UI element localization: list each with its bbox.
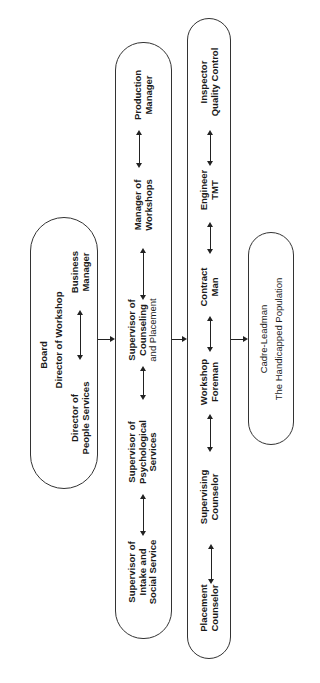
contract-man-label: Contract Man xyxy=(199,267,220,306)
supervising-counselor-label: Supervising Counselor xyxy=(199,470,220,524)
dps-line2: People Services xyxy=(80,382,91,455)
cm-line1: Contract xyxy=(199,267,210,306)
business-line2: Manager xyxy=(80,251,91,293)
inspector-qc-label: Inspector Quality Control xyxy=(199,48,220,117)
pm-line1: Production xyxy=(133,70,144,120)
business-line1: Business xyxy=(70,251,81,293)
sp-line3: Services xyxy=(148,420,159,484)
pc-line2: Counselor xyxy=(209,584,220,632)
sc-line3: and Placement xyxy=(148,298,159,361)
wf-line1: Workshop xyxy=(199,359,210,405)
scn-line1: Supervising xyxy=(199,470,210,524)
si-line1: Supervisor of xyxy=(127,540,138,604)
supervisor-intake-label: Supervisor of Intake and Social Service xyxy=(127,540,159,604)
eng-line1: Engineer xyxy=(199,170,210,211)
wf-line2: Foreman xyxy=(209,359,220,405)
manager-of-workshops-label: Manager of Workshops xyxy=(133,179,154,231)
population-label: Cadre-Leadman The Handicapped Population xyxy=(259,278,284,401)
si-line3: Social Service xyxy=(148,540,159,604)
business-manager-label: Business Manager xyxy=(70,251,91,293)
cm-line2: Man xyxy=(209,267,220,306)
iqc-line2: Quality Control xyxy=(209,48,220,117)
director-people-services-label: Director of People Services xyxy=(70,382,91,455)
pop-line1: Cadre-Leadman xyxy=(259,278,270,401)
mw-line2: Workshops xyxy=(143,179,154,231)
engineer-tmt-label: Engineer TMT xyxy=(199,170,220,211)
director-of-workshop-label: Director of Workshop xyxy=(54,292,65,389)
dps-line1: Director of xyxy=(70,382,81,455)
production-manager-label: Production Manager xyxy=(133,70,154,120)
scn-line2: Counselor xyxy=(209,470,220,524)
pm-line2: Manager xyxy=(143,70,154,120)
mw-line1: Manager of xyxy=(133,179,144,231)
board-title: Board xyxy=(39,341,50,368)
pop-line2: The Handicapped Population xyxy=(273,278,284,401)
placement-counselor-label: Placement Counselor xyxy=(199,584,220,632)
supervisor-counseling-label: Supervisor of Counseling and Placement xyxy=(127,298,159,361)
pc-line1: Placement xyxy=(199,584,210,632)
sc-line1: Supervisor of xyxy=(127,298,138,361)
sp-line1: Supervisor of xyxy=(127,420,138,484)
iqc-line1: Inspector xyxy=(199,48,210,117)
supervisor-psychological-label: Supervisor of Psychological Services xyxy=(127,420,159,484)
eng-line2: TMT xyxy=(209,170,220,211)
workshop-foreman-label: Workshop Foreman xyxy=(199,359,220,405)
